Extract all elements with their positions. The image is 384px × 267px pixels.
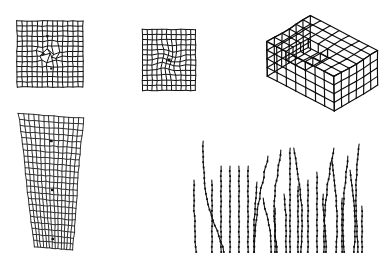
trajectory-svg <box>186 136 370 260</box>
mesh-svg-tapered <box>16 112 86 254</box>
panel-square-grid-perturbed <box>16 20 84 88</box>
panel-isometric-box-mesh <box>253 12 363 116</box>
panel-tapered-mesh <box>16 112 86 254</box>
mesh-svg-radial-grid <box>141 28 197 92</box>
panel-square-grid-radial <box>141 28 197 92</box>
mesh-svg-perturbed-grid <box>16 20 84 88</box>
panel-trajectory-field <box>186 136 370 260</box>
figure-root <box>0 0 384 267</box>
mesh-svg-3d-box <box>253 12 363 116</box>
